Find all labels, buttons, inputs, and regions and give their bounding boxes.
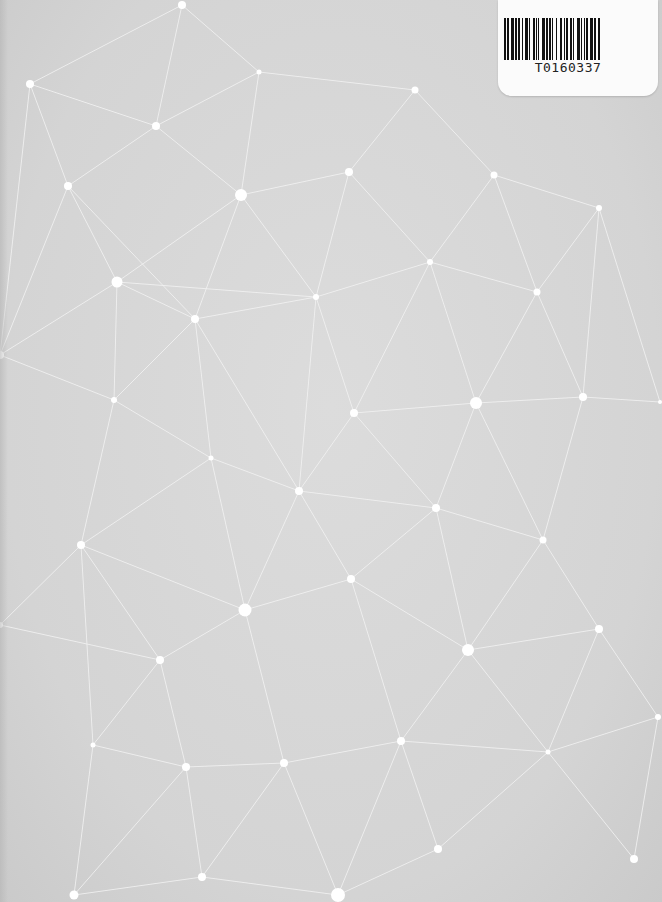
network-node	[182, 763, 190, 771]
network-line	[68, 186, 195, 319]
network-node	[64, 182, 72, 190]
book-cover: T0160337	[0, 0, 662, 902]
network-line	[401, 741, 548, 752]
network-line	[583, 397, 660, 402]
network-line	[338, 849, 438, 895]
network-line	[211, 458, 299, 491]
network-node	[26, 80, 34, 88]
network-node	[350, 409, 358, 417]
network-line	[114, 282, 117, 400]
network-line	[117, 282, 195, 319]
network-node	[198, 873, 206, 881]
network-line	[436, 403, 476, 508]
network-line	[0, 545, 81, 625]
network-line	[81, 458, 211, 545]
network-node	[470, 397, 482, 409]
network-line	[436, 508, 543, 540]
network-line	[354, 262, 430, 413]
network-line	[284, 741, 401, 763]
network-node	[412, 87, 419, 94]
network-line	[599, 208, 660, 402]
network-line	[430, 175, 494, 262]
network-line	[354, 413, 436, 508]
network-line	[438, 752, 548, 849]
network-line	[468, 540, 543, 650]
network-line	[30, 5, 182, 84]
network-line	[195, 319, 299, 491]
network-line	[74, 745, 93, 895]
network-line	[93, 745, 186, 767]
network-line	[436, 508, 468, 650]
network-line	[0, 355, 114, 400]
network-line	[114, 319, 195, 400]
network-node	[112, 277, 123, 288]
network-line	[354, 403, 476, 413]
network-node	[579, 393, 587, 401]
network-line	[494, 175, 537, 292]
network-node	[630, 855, 638, 863]
network-node	[91, 743, 96, 748]
barcode-sticker: T0160337	[498, 0, 658, 96]
network-node	[191, 315, 199, 323]
network-line	[349, 172, 430, 262]
network-line	[415, 90, 494, 175]
network-node	[546, 750, 551, 755]
network-line	[241, 195, 316, 297]
network-node	[239, 604, 252, 617]
network-line	[81, 545, 160, 660]
network-node	[295, 487, 303, 495]
network-line	[583, 208, 599, 397]
network-node	[77, 541, 85, 549]
network-node	[434, 845, 442, 853]
network-node	[534, 289, 541, 296]
network-line	[494, 175, 599, 208]
network-line	[30, 84, 68, 186]
network-line	[186, 763, 284, 767]
network-node	[491, 172, 498, 179]
network-node	[427, 259, 433, 265]
network-node	[331, 888, 345, 902]
network-node	[313, 294, 319, 300]
network-line	[245, 610, 284, 763]
network-node	[462, 644, 474, 656]
network-line	[160, 610, 245, 660]
spine-shadow	[0, 0, 8, 902]
network-line	[543, 540, 599, 629]
network-line	[160, 660, 186, 767]
network-line	[211, 458, 245, 610]
network-node	[178, 1, 186, 9]
network-node	[596, 205, 602, 211]
network-line	[316, 297, 354, 413]
network-line	[93, 660, 160, 745]
network-node	[658, 400, 662, 404]
network-node	[432, 504, 440, 512]
network-line	[548, 717, 658, 752]
network-line	[195, 297, 316, 319]
barcode-number: T0160337	[498, 60, 638, 75]
network-line	[476, 397, 583, 403]
network-pattern	[0, 0, 662, 902]
network-line	[599, 629, 658, 717]
network-line	[117, 195, 241, 282]
network-line	[351, 579, 401, 741]
network-line	[68, 126, 156, 186]
network-node	[257, 70, 262, 75]
network-line	[299, 491, 351, 579]
network-node	[595, 625, 603, 633]
network-line	[634, 717, 658, 859]
barcode-icon	[504, 18, 601, 60]
network-node	[345, 168, 353, 176]
network-line	[259, 72, 415, 90]
network-line	[537, 208, 599, 292]
network-node	[397, 737, 405, 745]
network-line	[338, 741, 401, 895]
network-line	[186, 767, 202, 877]
network-line	[117, 282, 316, 297]
network-node	[540, 537, 547, 544]
network-node	[235, 189, 247, 201]
network-line	[468, 629, 599, 650]
network-line	[241, 172, 349, 195]
network-line	[401, 741, 438, 849]
network-line	[299, 413, 354, 491]
network-node	[111, 397, 117, 403]
